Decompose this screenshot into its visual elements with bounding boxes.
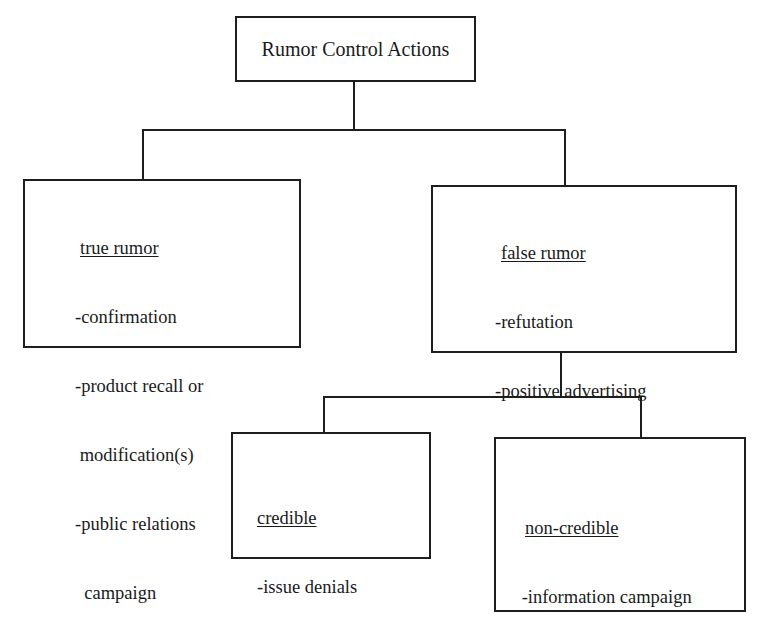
true-rumor-heading: true rumor [75,237,203,260]
credible-heading: credible [257,507,388,530]
list-item: -confirmation [75,306,203,329]
credible-node: credible -issue denials -threaten lawsui… [231,432,431,559]
connector-true-rumor-drop [142,129,144,180]
non-credible-content: non-credible -information campaign -reas… [517,471,692,626]
list-item: -public relations [75,513,203,536]
non-credible-heading: non-credible [517,517,692,540]
false-rumor-node: false rumor -refutation -positive advert… [431,185,737,353]
connector-credible-drop [323,396,325,433]
connector-root-horizontal [142,129,566,131]
non-credible-node: non-credible -information campaign -reas… [494,437,746,612]
list-item: -refutation [495,311,690,334]
false-rumor-heading: false rumor [495,242,690,265]
list-item: -information campaign [517,586,692,609]
list-item: -issue denials [257,576,388,599]
list-item: -product recall or [75,375,203,398]
connector-root-down [353,81,355,131]
root-node-label: Rumor Control Actions [237,38,474,61]
connector-false-rumor-drop [564,129,566,186]
list-item: modification(s) [75,444,203,467]
true-rumor-content: true rumor -confirmation -product recall… [75,191,203,626]
list-item: campaign [75,582,203,605]
list-item: -positive advertising [495,380,690,403]
root-node: Rumor Control Actions [235,16,476,82]
credible-content: credible -issue denials -threaten lawsui… [257,461,388,626]
true-rumor-node: true rumor -confirmation -product recall… [23,179,301,348]
